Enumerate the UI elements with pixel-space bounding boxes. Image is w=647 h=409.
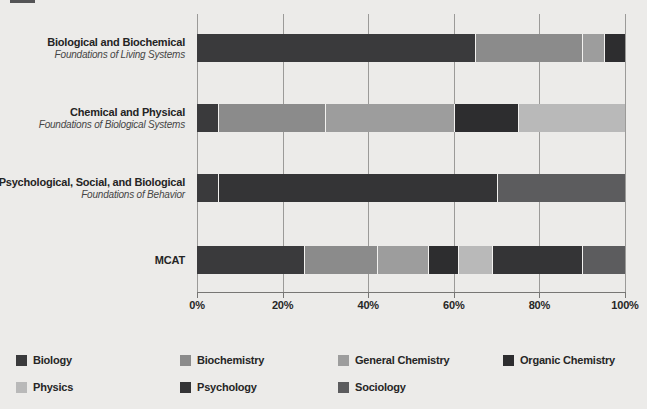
bar-segment [197, 34, 475, 62]
bar-segment [197, 246, 304, 274]
legend-label: Biology [33, 354, 72, 366]
x-axis-line [197, 292, 626, 293]
x-axis-tick-label: 100% [611, 299, 638, 311]
bar-segment [458, 246, 492, 274]
row-label: Chemical and PhysicalFoundations of Biol… [0, 104, 185, 132]
bar-segment [475, 34, 582, 62]
bar-segment [428, 246, 458, 274]
legend-label: Physics [33, 381, 73, 393]
bar-segment [218, 174, 496, 202]
row-label: MCAT [0, 246, 185, 274]
row-title: MCAT [0, 254, 185, 266]
bar-segment [454, 104, 518, 132]
legend-item: Biochemistry [180, 354, 264, 366]
bar-segment [582, 246, 625, 274]
row-label: Psychological, Social, and BiologicalFou… [0, 174, 185, 202]
scan-artifact [10, 0, 35, 3]
legend-label: Psychology [197, 381, 257, 393]
x-axis-tick-label: 60% [443, 299, 464, 311]
stacked-bar [197, 246, 625, 274]
stacked-bar [197, 34, 625, 62]
legend-swatch [16, 355, 27, 366]
bar-segment [218, 104, 325, 132]
x-axis-tick-label: 40% [357, 299, 378, 311]
row-title: Biological and Biochemical [0, 36, 185, 48]
legend-item: Psychology [180, 381, 257, 393]
legend-swatch [180, 382, 191, 393]
row-title: Psychological, Social, and Biological [0, 176, 185, 188]
bar-segment [518, 104, 625, 132]
bar-segment [197, 174, 218, 202]
row-label: Biological and BiochemicalFoundations of… [0, 34, 185, 62]
legend-item: Biology [16, 354, 72, 366]
legend-item: General Chemistry [338, 354, 449, 366]
row-title: Chemical and Physical [0, 106, 185, 118]
bar-segment [325, 104, 453, 132]
legend-swatch [503, 355, 514, 366]
legend-item: Physics [16, 381, 73, 393]
legend-label: General Chemistry [355, 354, 449, 366]
legend-label: Biochemistry [197, 354, 264, 366]
x-axis-tick-label: 80% [529, 299, 550, 311]
gridline [625, 14, 626, 292]
legend-item: Sociology [338, 381, 406, 393]
bar-segment [492, 246, 582, 274]
bar-segment [604, 34, 625, 62]
legend-label: Organic Chemistry [520, 354, 615, 366]
row-subtitle: Foundations of Living Systems [0, 49, 185, 60]
legend-swatch [16, 382, 27, 393]
legend-swatch [338, 382, 349, 393]
bar-segment [582, 34, 603, 62]
stacked-bar [197, 174, 625, 202]
legend-label: Sociology [355, 381, 406, 393]
legend-swatch [180, 355, 191, 366]
bar-segment [304, 246, 377, 274]
stacked-bar-chart-page: 0%20%40%60%80%100% Biological and Bioche… [0, 0, 647, 409]
stacked-bar [197, 104, 625, 132]
x-axis-tick-label: 0% [189, 299, 205, 311]
row-subtitle: Foundations of Behavior [0, 189, 185, 200]
legend-item: Organic Chemistry [503, 354, 615, 366]
bar-segment [497, 174, 625, 202]
x-axis-tick-label: 20% [272, 299, 293, 311]
bar-segment [377, 246, 428, 274]
row-subtitle: Foundations of Biological Systems [0, 119, 185, 130]
bar-segment [197, 104, 218, 132]
legend-swatch [338, 355, 349, 366]
